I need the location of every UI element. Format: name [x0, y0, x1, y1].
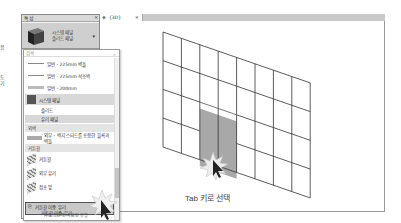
list-item[interactable]: 외부 유리 [25, 167, 114, 179]
recent-types-note: 가장 최근에 사용된 유형 [44, 212, 88, 218]
list-item[interactable]: 유리 패널 [25, 115, 114, 123]
type-search-field[interactable]: 검색 ⌕ [24, 50, 119, 57]
type-selector[interactable]: 시스템 패널 솔리드 패널 ▾ [22, 23, 99, 49]
wall-thumbnail-icon [26, 26, 46, 46]
list-item[interactable]: 커튼월 [25, 153, 114, 165]
scrollbar-thumb[interactable] [115, 168, 119, 198]
tab-3d-view[interactable]: ◈ {3D} × [100, 14, 143, 21]
search-placeholder: 검색 [26, 50, 34, 57]
list-item[interactable]: 솔리드 [25, 106, 114, 114]
type-type-name: 솔리드 패널 [52, 36, 73, 41]
callout-label: Tab 키로 선택 [185, 192, 230, 203]
list-item-family[interactable]: ⎘ 커튼월 이중 유리 [25, 203, 114, 210]
list-item[interactable]: 외부 - 벽지 스터드를 포함한 블록과 벽돌 [25, 133, 114, 142]
wall-icon [27, 95, 36, 104]
curtain-wall-icon [27, 167, 36, 179]
screenshot-stage: 음 도 기 특성 시스템 패널 솔리드 패널 ▾ × ◈ {3D} × [0, 0, 401, 223]
line-swatch-icon [28, 75, 44, 76]
door-icon: ⎘ [28, 203, 32, 210]
curtain-wall-grid [100, 21, 385, 212]
3d-viewport[interactable] [100, 21, 385, 212]
properties-title: 특성 [24, 15, 34, 22]
type-dropdown-list[interactable]: 검색 ⌕ 일반 - 225mm 벽돌 일반 - 225mm 석조벽 일반 - 2… [23, 49, 120, 221]
list-item[interactable]: 일반 - 225mm 벽돌 [25, 59, 114, 68]
list-item[interactable]: 일반 - 200mm [25, 83, 114, 92]
list-item[interactable]: 일반 - 225mm 석조벽 [25, 71, 114, 80]
list-category: 커튼월 [25, 144, 114, 152]
properties-close-button[interactable]: × [94, 14, 98, 21]
type-name: 시스템 패널 솔리드 패널 [52, 30, 73, 41]
tab-close-button[interactable]: × [135, 14, 139, 21]
curtain-wall-icon [27, 153, 36, 165]
margin-text-fragment: 음 [0, 44, 5, 50]
hatch-swatch-icon [27, 136, 42, 140]
search-icon: ⌕ [113, 51, 116, 58]
dropdown-arrow-icon[interactable]: ▾ [92, 33, 95, 39]
line-swatch-icon [28, 86, 44, 89]
3d-view-icon: ◈ [102, 14, 106, 21]
view-tab-bar: ◈ {3D} × [100, 14, 385, 21]
list-item-family[interactable]: 시스템 패널 [25, 94, 114, 105]
properties-header: 특성 [22, 15, 99, 22]
line-swatch-icon [28, 63, 44, 64]
type-family-name: 시스템 패널 [52, 30, 73, 35]
tab-label: {3D} [109, 14, 121, 21]
margin-text-fragment: 기 [0, 80, 5, 86]
scrollbar[interactable] [114, 58, 119, 220]
curtain-wall-icon [27, 181, 36, 193]
list-item[interactable]: 점포 앞 [25, 181, 114, 193]
